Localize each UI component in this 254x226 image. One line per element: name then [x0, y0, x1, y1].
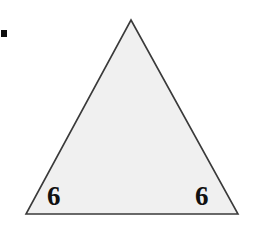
- figure-canvas: 6 6: [0, 0, 254, 226]
- triangle-figure: [0, 0, 254, 226]
- side-label-right: 6: [195, 183, 209, 210]
- side-label-left: 6: [47, 183, 61, 210]
